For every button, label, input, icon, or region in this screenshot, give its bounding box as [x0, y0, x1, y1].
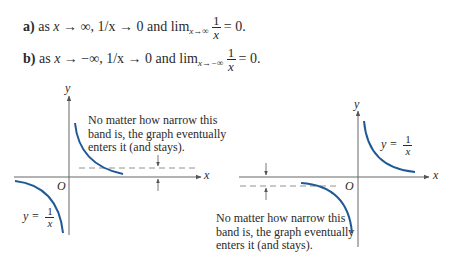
- axis-x-label: x: [433, 169, 438, 183]
- function-lhs: y =: [381, 137, 397, 151]
- axis-x-label: x: [204, 169, 209, 183]
- axis-y-label: y: [65, 82, 70, 96]
- note-line: enters it (and stays).: [88, 141, 226, 155]
- denominator: x: [45, 218, 54, 229]
- fraction: 1x: [403, 134, 412, 157]
- function-lhs: y =: [23, 209, 39, 223]
- note-line: No matter how narrow this: [88, 114, 226, 128]
- function-label: y = 1x: [381, 134, 415, 157]
- fraction: 1x: [45, 206, 54, 229]
- note-line: band is, the graph eventually: [216, 226, 354, 240]
- origin-label: O: [345, 180, 354, 194]
- origin-label: O: [57, 180, 66, 194]
- note-line: enters it (and stays).: [216, 239, 354, 253]
- band-note: No matter how narrow this band is, the g…: [216, 212, 354, 253]
- denominator: x: [403, 146, 412, 157]
- note-line: band is, the graph eventually: [88, 128, 226, 142]
- numerator: 1: [403, 134, 412, 145]
- note-line: No matter how narrow this: [216, 212, 354, 226]
- function-label: y = 1x: [23, 206, 57, 229]
- axis-y-label: y: [354, 98, 359, 112]
- numerator: 1: [45, 206, 54, 217]
- band-note: No matter how narrow this band is, the g…: [88, 114, 226, 155]
